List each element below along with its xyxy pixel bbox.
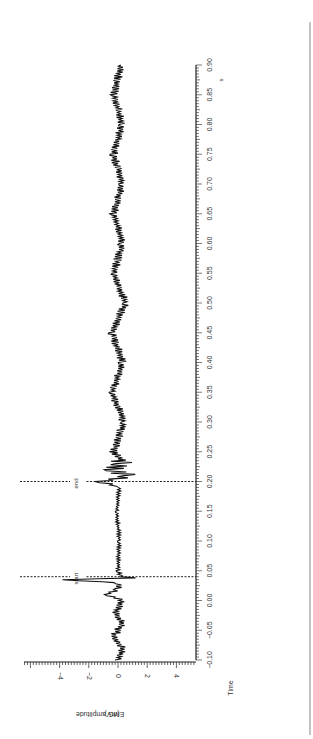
y-tick-label: 2 [144,674,151,678]
y-tick-label: −2 [86,672,93,680]
x-tick-label: 0.65 [206,207,213,221]
x-tick-label: 0.40 [206,356,213,370]
x-tick-label: 0.15 [206,504,213,518]
x-tick-label: −0.10 [206,651,213,669]
x-tick-label: 0.20 [206,475,213,489]
x-tick-label: 0.85 [206,88,213,102]
x-tick-label: 0.35 [206,385,213,399]
y-tick-label: 4 [173,674,180,678]
y-axis-unit: (mV) [104,710,119,718]
x-tick-label: 0.70 [206,177,213,191]
annotation-label-end: end [73,478,79,488]
y-tick-label: 0 [115,674,122,678]
emg-trace [63,65,136,660]
x-tick-label: 0.25 [206,445,213,459]
x-tick-label: 0.80 [206,118,213,132]
x-tick-label: 0.90 [206,58,213,72]
annotations: startend [20,478,196,585]
emg-chart: −4−2024−0.10−0.050.000.050.100.150.200.2… [0,0,313,739]
x-tick-label: 0.05 [206,564,213,578]
x-tick-label: 0.50 [206,296,213,310]
x-tick-label: 0.55 [206,266,213,280]
x-tick-label: 0.10 [206,534,213,548]
x-tick-label: 0.30 [206,415,213,429]
x-tick-label: 0.45 [206,326,213,340]
x-tick-label: 0.00 [206,594,213,608]
y-tick-label: −4 [57,672,64,680]
x-axis-unit: s [218,79,224,82]
annotation-label-start: start [73,573,79,585]
x-tick-label: 0.75 [206,147,213,161]
x-tick-label: 0.60 [206,237,213,251]
x-tick-label: −0.05 [206,621,213,639]
x-axis-label: Time [227,680,234,695]
